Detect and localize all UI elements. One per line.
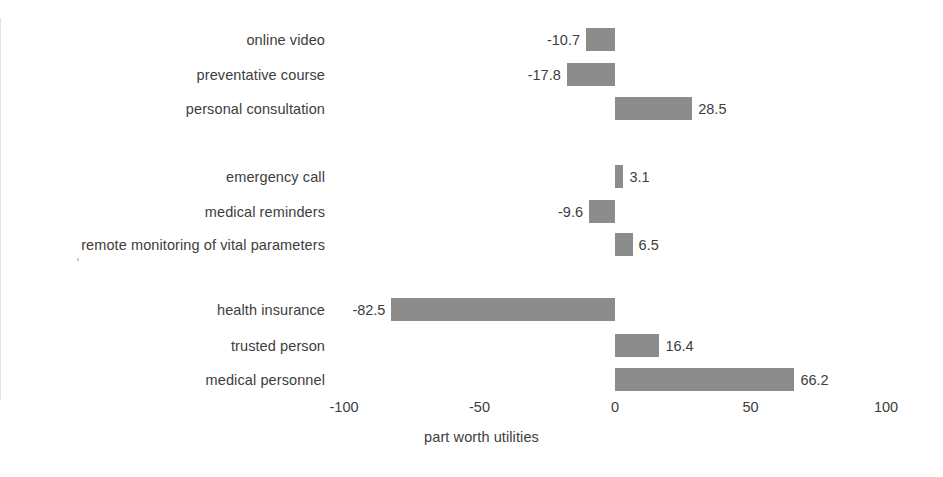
bar <box>615 368 794 391</box>
bar-row: medical reminders-9.6 <box>0 200 943 223</box>
bar-row: remote monitoring of vital parameters6.5 <box>0 233 943 256</box>
bar-row: health insurance-82.5 <box>0 298 943 321</box>
category-label: preventative course <box>0 67 325 83</box>
category-label: online video <box>0 32 325 48</box>
bar <box>615 97 692 120</box>
plot-area: online video-10.7preventative course-17.… <box>0 0 943 400</box>
bar-row: emergency call3.1 <box>0 165 943 188</box>
bar-value-label: -10.7 <box>547 32 580 48</box>
bar-row: medical personnel66.2 <box>0 368 943 391</box>
bar-value-label: 16.4 <box>665 338 693 354</box>
bar-row: trusted person16.4 <box>0 334 943 357</box>
bar <box>391 298 615 321</box>
x-axis-tick: 100 <box>874 398 898 416</box>
x-axis-title-text: part worth utilities <box>424 428 539 446</box>
scan-speck <box>77 258 79 261</box>
category-label: medical reminders <box>0 204 325 220</box>
bar <box>567 63 615 86</box>
category-label: health insurance <box>0 302 325 318</box>
bar-row: online video-10.7 <box>0 28 943 51</box>
part-worth-utilities-chart: online video-10.7preventative course-17.… <box>0 0 943 477</box>
bar-value-label: -17.8 <box>528 67 561 83</box>
x-axis-tick: 50 <box>742 398 758 416</box>
bar-row: preventative course-17.8 <box>0 63 943 86</box>
x-axis-tick-labels: -100-50050100 <box>0 398 943 420</box>
bar-value-label: 66.2 <box>800 372 828 388</box>
bar-value-label: 3.1 <box>629 169 649 185</box>
category-label: emergency call <box>0 169 325 185</box>
bar <box>615 165 623 188</box>
bar-value-label: 6.5 <box>639 237 659 253</box>
bar <box>589 200 615 223</box>
bar-row: personal consultation28.5 <box>0 97 943 120</box>
category-label: trusted person <box>0 338 325 354</box>
category-label: personal consultation <box>0 101 325 117</box>
category-label: medical personnel <box>0 372 325 388</box>
x-axis-tick: -50 <box>469 398 490 416</box>
bar <box>615 233 633 256</box>
x-axis-tick: 0 <box>611 398 619 416</box>
x-axis-tick: -100 <box>329 398 358 416</box>
category-label: remote monitoring of vital parameters <box>0 237 325 253</box>
bar-value-label: -82.5 <box>352 302 385 318</box>
bar-value-label: -9.6 <box>558 204 583 220</box>
bar <box>586 28 615 51</box>
x-axis-title: part worth utilities <box>0 428 943 446</box>
bar <box>615 334 659 357</box>
bar-value-label: 28.5 <box>698 101 726 117</box>
